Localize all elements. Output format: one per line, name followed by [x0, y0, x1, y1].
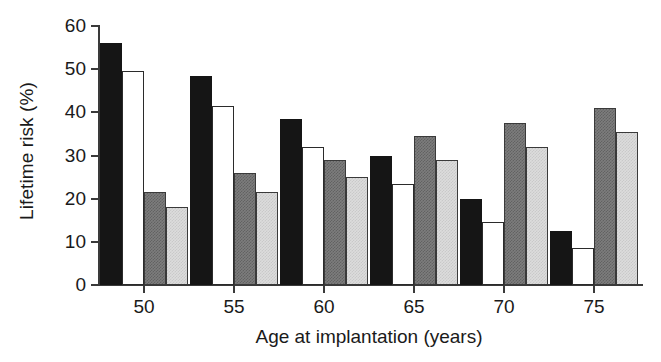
bar-group	[460, 26, 548, 285]
x-tick-mark	[233, 286, 235, 293]
bar[interactable]	[414, 136, 436, 285]
y-tick-mark	[91, 241, 99, 243]
x-tick-mark	[143, 286, 145, 293]
bar-group	[550, 26, 638, 285]
bar[interactable]	[436, 160, 458, 285]
y-tick-label: 10	[46, 232, 86, 251]
bar-group	[100, 26, 188, 285]
y-tick-label-wrap: 60	[38, 16, 86, 35]
y-tick-label-wrap: 10	[38, 232, 86, 251]
bar[interactable]	[302, 147, 324, 285]
bar[interactable]	[616, 132, 638, 285]
bar[interactable]	[190, 76, 212, 285]
y-tick-label: 60	[46, 16, 86, 35]
x-tick-mark	[413, 286, 415, 293]
bar-group	[370, 26, 458, 285]
bar[interactable]	[234, 173, 256, 285]
bar[interactable]	[526, 147, 548, 285]
y-tick-label-wrap: 50	[38, 59, 86, 78]
y-tick-label: 50	[46, 59, 86, 78]
bar[interactable]	[392, 184, 414, 285]
y-tick-label: 20	[46, 189, 86, 208]
x-tick-mark	[503, 286, 505, 293]
bar[interactable]	[550, 231, 572, 285]
x-tick-mark	[323, 286, 325, 293]
bar-group	[280, 26, 368, 285]
bar[interactable]	[504, 123, 526, 285]
y-tick-mark	[91, 284, 99, 286]
bar[interactable]	[256, 192, 278, 285]
y-tick-label-wrap: 0	[38, 275, 86, 294]
y-tick-label: 30	[46, 146, 86, 165]
y-tick-label-wrap: 30	[38, 146, 86, 165]
x-axis-title: Age at implantation (years)	[99, 326, 639, 348]
y-tick-mark	[91, 25, 99, 27]
bar-chart-figure: Lifetime risk (%) 0102030405060 50556065…	[0, 0, 661, 362]
y-tick-mark	[91, 111, 99, 113]
bar[interactable]	[144, 192, 166, 285]
bar[interactable]	[212, 106, 234, 285]
bar[interactable]	[460, 199, 482, 285]
x-tick-label: 55	[204, 296, 264, 318]
bar[interactable]	[482, 222, 504, 285]
y-tick-label-wrap: 40	[38, 102, 86, 121]
x-tick-label: 70	[474, 296, 534, 318]
bar[interactable]	[166, 207, 188, 285]
bar[interactable]	[572, 248, 594, 285]
bar[interactable]	[594, 108, 616, 285]
bar[interactable]	[370, 156, 392, 286]
y-tick-mark	[91, 198, 99, 200]
y-tick-label: 40	[46, 102, 86, 121]
x-tick-label: 65	[384, 296, 444, 318]
bar[interactable]	[324, 160, 346, 285]
plot-area	[99, 26, 639, 285]
y-tick-label: 0	[46, 275, 86, 294]
bar[interactable]	[280, 119, 302, 285]
y-tick-label-wrap: 20	[38, 189, 86, 208]
x-tick-mark	[593, 286, 595, 293]
bar[interactable]	[122, 71, 144, 285]
bar-group	[190, 26, 278, 285]
x-tick-label: 60	[294, 296, 354, 318]
y-tick-mark	[91, 68, 99, 70]
y-tick-mark	[91, 155, 99, 157]
x-tick-label: 50	[114, 296, 174, 318]
bar[interactable]	[346, 177, 368, 285]
bar[interactable]	[100, 43, 122, 285]
x-tick-label: 75	[564, 296, 624, 318]
